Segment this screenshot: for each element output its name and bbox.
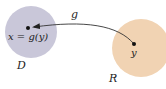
set-r-label: R [108, 72, 117, 85]
set-d-label: D [16, 59, 26, 72]
point-x-label: x = g(y) [8, 31, 48, 42]
point-y-dot [132, 42, 136, 46]
set-r-circle [112, 19, 166, 77]
point-y-label: y [130, 47, 137, 58]
inverse-map-diagram: g x = g(y) y D R [0, 0, 166, 89]
point-x-dot [26, 26, 30, 30]
mapping-label-g: g [71, 8, 78, 21]
